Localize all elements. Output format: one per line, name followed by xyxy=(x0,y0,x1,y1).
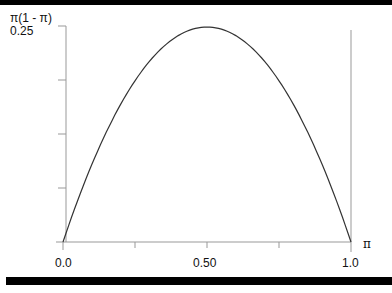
x-axis-title: π xyxy=(363,237,371,251)
data-curve xyxy=(63,27,351,242)
x-tick-label-0: 0.0 xyxy=(55,256,72,270)
y-top-tick-label: 0.25 xyxy=(10,25,33,38)
bottom-border-bar xyxy=(6,277,392,285)
x-tick-label-mid: 0.50 xyxy=(193,256,216,270)
chart-plot xyxy=(0,0,392,293)
x-tick-label-1: 1.0 xyxy=(342,256,359,270)
